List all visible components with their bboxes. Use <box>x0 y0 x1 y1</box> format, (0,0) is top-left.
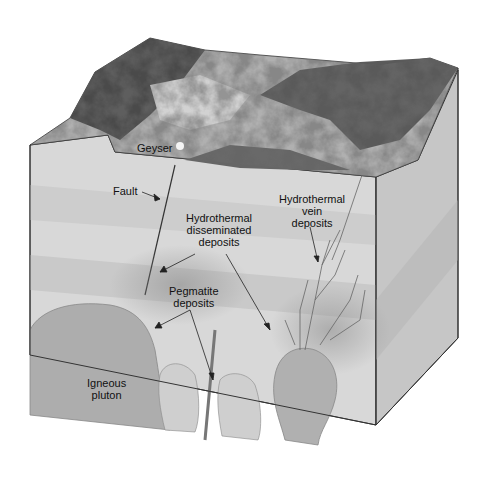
label-vein-deposits: Hydrothermal vein deposits <box>279 193 345 229</box>
label-igneous-pluton: Igneous pluton <box>87 377 126 401</box>
label-line: deposits <box>169 297 219 309</box>
label-pegmatite-deposits: Pegmatite deposits <box>169 285 219 309</box>
label-line: Pegmatite <box>169 285 219 297</box>
label-disseminated-deposits: Hydrothermal disseminated deposits <box>186 212 252 248</box>
label-line: deposits <box>279 217 345 229</box>
label-line: Igneous <box>87 377 126 389</box>
label-line: Hydrothermal <box>279 193 345 205</box>
pegmatite-body-2 <box>218 374 261 440</box>
pegmatite-body-1 <box>159 364 199 432</box>
label-fault: Fault <box>113 185 137 197</box>
geyser-plume <box>176 142 184 150</box>
label-geyser: Geyser <box>137 142 172 154</box>
label-line: disseminated <box>186 224 252 236</box>
label-line: pluton <box>87 389 126 401</box>
pluton-right <box>274 348 337 445</box>
label-line: vein <box>279 205 345 217</box>
label-line: deposits <box>186 236 252 248</box>
label-line: Hydrothermal <box>186 212 252 224</box>
